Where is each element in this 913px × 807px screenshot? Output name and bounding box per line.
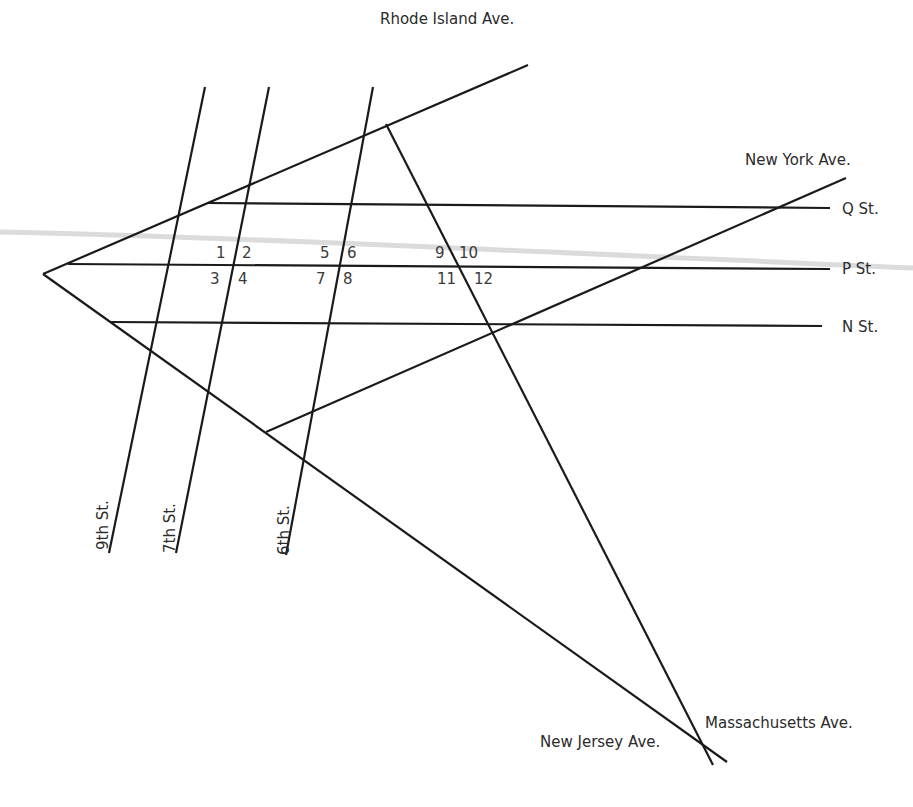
angle-label-9: 9 bbox=[435, 244, 445, 262]
angle-label-8: 8 bbox=[343, 270, 353, 288]
road-q-st bbox=[208, 203, 830, 208]
road-new-york-ave bbox=[266, 178, 846, 432]
angle-label-10: 10 bbox=[459, 244, 478, 262]
road-n-st bbox=[110, 322, 822, 326]
angle-label-11: 11 bbox=[437, 270, 456, 288]
label-p-st: P St. bbox=[842, 260, 876, 278]
angle-label-6: 6 bbox=[347, 244, 357, 262]
street-map-diagram: Rhode Island Ave. New York Ave. Q St. P … bbox=[0, 0, 913, 807]
angle-label-12: 12 bbox=[474, 270, 493, 288]
angle-label-3: 3 bbox=[210, 270, 220, 288]
label-7th-st: 7th St. bbox=[161, 503, 179, 553]
road-p-st bbox=[68, 264, 830, 269]
angle-label-2: 2 bbox=[242, 244, 252, 262]
road-new-jersey-ave bbox=[43, 274, 727, 762]
angle-label-4: 4 bbox=[238, 270, 248, 288]
label-q-st: Q St. bbox=[842, 200, 879, 218]
label-n-st: N St. bbox=[842, 318, 878, 336]
road-6th-st bbox=[286, 87, 373, 555]
label-rhode-island-ave: Rhode Island Ave. bbox=[380, 10, 514, 28]
road-massachusetts-ave bbox=[386, 124, 713, 765]
label-new-jersey-ave: New Jersey Ave. bbox=[540, 733, 660, 751]
label-massachusetts-ave: Massachusetts Ave. bbox=[705, 714, 853, 732]
angle-label-7: 7 bbox=[316, 270, 326, 288]
angle-label-1: 1 bbox=[216, 244, 226, 262]
label-6th-st: 6th St. bbox=[275, 505, 293, 555]
label-9th-st: 9th St. bbox=[94, 500, 112, 550]
angle-label-5: 5 bbox=[320, 244, 330, 262]
label-new-york-ave: New York Ave. bbox=[745, 151, 851, 169]
